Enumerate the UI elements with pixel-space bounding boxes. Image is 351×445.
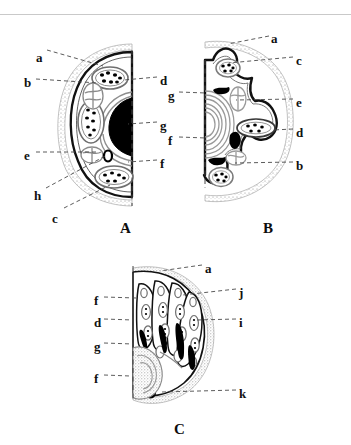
label-b-b-4: b [296,159,303,172]
label-b-f-6: f [168,134,172,147]
panel-letter-c: C [174,422,185,437]
panel-b-bundle-right [237,119,275,137]
label-c-a-0: a [205,262,212,275]
label-a-b-1: b [24,76,31,89]
panel-a-oil-body [104,151,112,162]
panel-letter-a: A [120,221,131,236]
leader-g [104,343,133,344]
label-a-c-4: c [52,212,58,225]
panel-letter-b: B [263,221,273,236]
panel-a-bundle-lower [95,166,133,188]
label-a-a-0: a [36,51,43,64]
panel-c-drawing [104,265,236,403]
label-b-c-1: c [296,54,302,67]
label-b-a-0: a [271,32,278,45]
label-b-g-5: g [168,89,175,102]
panel-a-drawing [36,44,157,208]
label-c-g-6: g [94,340,101,353]
label-a-h-3: h [34,189,41,202]
panel-a-aerenchyma-upper [83,83,103,109]
leader-d [104,319,133,320]
leader-g [179,92,206,93]
label-c-d-5: d [94,316,101,329]
label-a-e-2: e [24,149,30,162]
label-b-d-3: d [296,126,303,139]
label-c-k-3: k [239,387,246,400]
leader-a [228,36,269,44]
label-c-f-4: f [94,294,98,307]
panel-b-bundle-bottom [209,168,233,187]
panel-a-aerenchyma-lower [81,147,103,163]
label-a-d-5: d [160,74,167,87]
panel-b-aerenchyma-upper [230,87,246,111]
leader-f-lower [104,375,130,376]
label-a-g-6: g [160,119,167,132]
leader-a [160,265,202,271]
label-c-j-1: j [239,286,243,299]
leader-f [179,137,206,138]
label-a-f-7: f [160,157,164,170]
label-c-f-7: f [94,372,98,385]
panel-b-drawing [179,36,293,202]
label-c-i-2: i [239,316,243,329]
label-b-e-2: e [296,96,302,109]
panel-b-bundle-top [216,59,240,77]
leader-f-upper [104,297,136,298]
